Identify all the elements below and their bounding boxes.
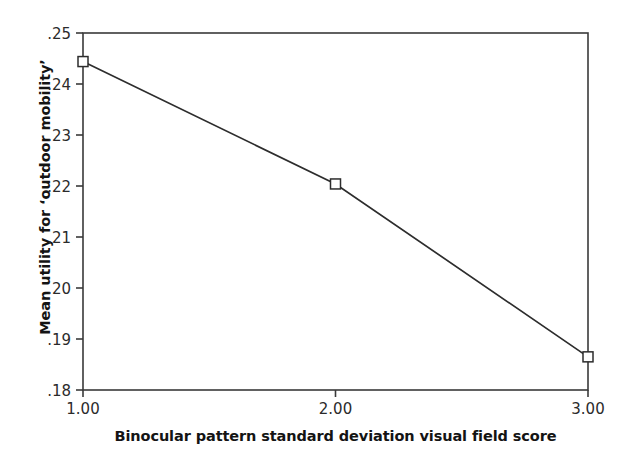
x-tick-label: 2.00 — [319, 400, 352, 418]
axes-frame — [83, 33, 588, 390]
y-tick-label: .19 — [47, 331, 71, 349]
x-tick-label: 3.00 — [571, 400, 604, 418]
y-tick-label: .24 — [47, 76, 71, 94]
plot-canvas: .18.19.20.21.22.23.24.25 1.002.003.00 — [0, 0, 620, 466]
y-tick-label: .20 — [47, 280, 71, 298]
data-point-markers — [78, 57, 593, 362]
data-point-marker — [583, 352, 593, 362]
data-series-line — [83, 62, 588, 357]
chart-figure: Mean utility for ‘outdoor mobility’ .18.… — [0, 0, 620, 466]
y-tick-label: .21 — [47, 229, 71, 247]
x-tick-label: 1.00 — [66, 400, 99, 418]
x-axis-title: Binocular pattern standard deviation vis… — [83, 428, 588, 444]
y-tick-label: .22 — [47, 178, 71, 196]
y-tick-label: .25 — [47, 25, 71, 43]
y-tick-label: .23 — [47, 127, 71, 145]
y-axis-ticks: .18.19.20.21.22.23.24.25 — [47, 25, 83, 400]
x-axis-ticks: 1.002.003.00 — [66, 390, 604, 418]
y-tick-label: .18 — [47, 382, 71, 400]
data-point-marker — [331, 179, 341, 189]
data-point-marker — [78, 57, 88, 67]
